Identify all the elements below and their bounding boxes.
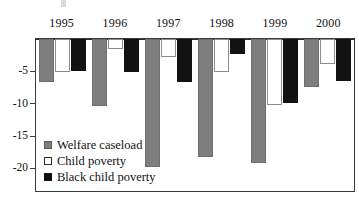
bar: [198, 39, 213, 157]
cropped-title-artifact: [61, 0, 66, 7]
legend-item-child-poverty: Child poverty: [44, 153, 194, 169]
legend: Welfare caseload Child poverty Black chi…: [44, 137, 194, 185]
bar: [283, 39, 298, 103]
bar: [320, 39, 335, 64]
legend-item-label: Welfare caseload: [57, 138, 142, 152]
bar: [92, 39, 107, 106]
bar: [230, 39, 245, 54]
x-axis-tick-label: 2000: [302, 14, 355, 32]
bar: [108, 39, 123, 49]
legend-swatch-icon: [44, 141, 52, 149]
legend-swatch-icon: [44, 157, 52, 165]
bar: [71, 39, 86, 71]
x-axis-tick-label: 1998: [195, 14, 248, 32]
bar-chart: 1995 1996 1997 1998 1999 2000 -5-10-15-2…: [0, 0, 359, 201]
x-axis-year-labels: 1995 1996 1997 1998 1999 2000: [35, 14, 355, 32]
bar-group-1998: [195, 39, 248, 191]
bar: [251, 39, 266, 163]
y-axis-tick-label: -15: [2, 130, 28, 141]
bar: [55, 39, 70, 72]
bar: [177, 39, 192, 82]
bar: [304, 39, 319, 87]
y-axis-tick-label: -10: [2, 98, 28, 109]
x-axis-tick-label: 1999: [248, 14, 301, 32]
bar: [124, 39, 139, 72]
legend-item-black-child-poverty: Black child poverty: [44, 169, 194, 185]
x-axis-tick-label: 1996: [88, 14, 141, 32]
bar: [39, 39, 54, 82]
bar: [214, 39, 229, 72]
legend-item-label: Child poverty: [57, 154, 126, 168]
legend-item-welfare-caseload: Welfare caseload: [44, 137, 194, 153]
x-axis-tick-label: 1997: [142, 14, 195, 32]
bar: [336, 39, 351, 81]
y-axis-tick-label: -5: [2, 65, 28, 76]
legend-item-label: Black child poverty: [57, 170, 156, 184]
bar: [161, 39, 176, 57]
bar-group-1999: [248, 39, 301, 191]
bar: [267, 39, 282, 105]
y-axis-tick-label: -20: [2, 162, 28, 173]
x-axis-tick-label: 1995: [35, 14, 88, 32]
legend-swatch-icon: [44, 173, 52, 181]
bar-group-2000: [301, 39, 354, 191]
